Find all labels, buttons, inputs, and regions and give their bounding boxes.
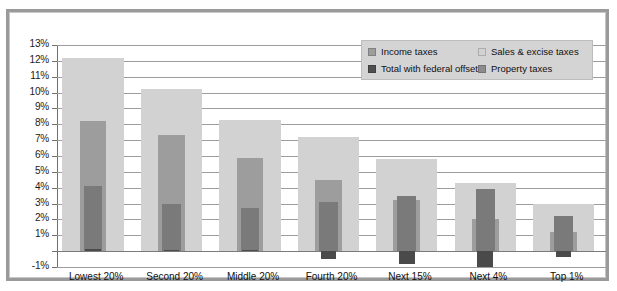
- bar-group: [214, 45, 292, 267]
- y-axis-tick-label: 1%: [35, 228, 49, 239]
- legend-label: Income taxes: [381, 47, 438, 57]
- bar: [241, 208, 260, 251]
- x-axis-label: Second 20%: [135, 271, 213, 282]
- legend-swatch-icon: [368, 65, 376, 73]
- bar: [84, 186, 103, 251]
- bar: [556, 251, 572, 257]
- legend-label: Sales & excise taxes: [491, 47, 579, 57]
- y-axis-tick-label: 11%: [30, 70, 49, 81]
- chart-frame: 13%12%11%10%9%8%7%6%5%4%3%2%1%0%-1% Lowe…: [6, 9, 609, 281]
- y-axis-tick-label: 4%: [35, 181, 49, 192]
- bar: [162, 204, 181, 252]
- bar-group: [292, 45, 370, 267]
- bar: [554, 216, 573, 251]
- chart-screenshot: 13%12%11%10%9%8%7%6%5%4%3%2%1%0%-1% Lowe…: [0, 0, 617, 291]
- y-axis-tick-label: 2%: [35, 212, 49, 223]
- legend-item: Property taxes: [478, 60, 588, 77]
- x-axis-label: Top 1%: [528, 271, 606, 282]
- bar: [164, 250, 180, 251]
- bar-group: [57, 45, 135, 267]
- bar: [321, 251, 337, 259]
- bar: [319, 202, 338, 251]
- legend-item: Income taxes: [368, 43, 478, 60]
- legend-swatch-icon: [368, 48, 376, 56]
- x-axis-label: Fourth 20%: [292, 271, 370, 282]
- x-axis-label: Next 15%: [371, 271, 449, 282]
- x-axis-label: Middle 20%: [214, 271, 292, 282]
- legend-label: Property taxes: [491, 64, 552, 74]
- y-axis-tick-label: 12%: [30, 54, 49, 65]
- bar: [85, 249, 101, 251]
- y-axis-tick-label: 5%: [35, 165, 49, 176]
- y-axis-tick-label: 7%: [35, 133, 49, 144]
- bar: [477, 251, 493, 267]
- y-axis-tick-label: 10%: [30, 86, 49, 97]
- x-axis-label: Lowest 20%: [57, 271, 135, 282]
- bar: [399, 251, 415, 264]
- bar: [476, 189, 495, 251]
- y-axis-tick-label: -1%: [32, 260, 49, 271]
- gridline: [57, 267, 606, 268]
- legend-swatch-icon: [478, 48, 486, 56]
- y-axis-tick-mark: [52, 267, 57, 268]
- y-axis-tick-label: 9%: [35, 101, 49, 112]
- legend-item: Sales & excise taxes: [478, 43, 588, 60]
- bar: [242, 250, 258, 252]
- legend-swatch-icon: [478, 65, 486, 73]
- x-axis-label: Next 4%: [449, 271, 527, 282]
- bar: [397, 196, 416, 252]
- legend-label: Total with federal offset: [381, 64, 478, 74]
- y-axis-tick-label: 13%: [30, 38, 49, 49]
- bar-group: [135, 45, 213, 267]
- y-axis-tick-label: 3%: [35, 197, 49, 208]
- y-axis-tick-label: 8%: [35, 117, 49, 128]
- y-axis-tick-label: 6%: [35, 149, 49, 160]
- legend-item: Total with federal offset: [368, 60, 478, 77]
- chart-legend: Income taxesSales & excise taxesTotal wi…: [361, 40, 593, 80]
